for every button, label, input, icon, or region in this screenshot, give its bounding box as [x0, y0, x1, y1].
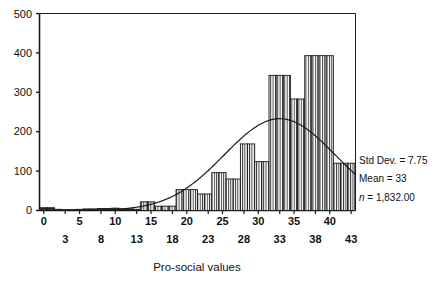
histogram-bar: [169, 206, 176, 210]
x-tick-label-20: 20: [181, 215, 193, 227]
y-tick-label-400: 400: [14, 47, 32, 59]
histogram-bar: [290, 99, 297, 211]
histogram-bar: [133, 209, 140, 210]
y-tick-label-100: 100: [14, 165, 32, 177]
n-value: = 1,832.00: [365, 192, 416, 203]
mean-label: Mean = 33: [359, 173, 407, 184]
x-tick-label-18: 18: [166, 233, 178, 245]
x-tick-label-40: 40: [324, 215, 336, 227]
x-tick-label-35: 35: [288, 215, 300, 227]
x-tick-label-23: 23: [202, 233, 214, 245]
chart-canvas: 0 100 200 300 400 500 051015202530354038…: [0, 0, 441, 286]
x-tick-label-43: 43: [345, 233, 357, 245]
x-tick-label-25: 25: [216, 215, 228, 227]
histogram-bar: [340, 163, 347, 210]
x-tick-label-28: 28: [238, 233, 250, 245]
x-tick-label-38: 38: [309, 233, 321, 245]
y-tick-label-0: 0: [26, 204, 32, 216]
x-axis-title: Pro-social values: [153, 261, 241, 273]
x-tick-label-30: 30: [252, 215, 264, 227]
histogram-bar: [240, 144, 247, 211]
histogram-bar: [190, 190, 197, 211]
x-tick-label-0: 0: [41, 215, 47, 227]
histogram-bar: [269, 75, 276, 210]
histogram-bar: [162, 206, 169, 210]
histogram-bar: [305, 56, 312, 211]
histogram-bar: [298, 99, 305, 211]
y-tick-label-300: 300: [14, 86, 32, 98]
histogram-bar: [219, 173, 226, 211]
histogram-bar: [333, 163, 340, 210]
x-tick-label-13: 13: [131, 233, 143, 245]
histogram-bar: [183, 190, 190, 211]
histogram-bar: [198, 194, 205, 211]
histogram-bar: [248, 144, 255, 211]
histogram-figure: 0 100 200 300 400 500 051015202530354038…: [0, 0, 441, 286]
histogram-bar: [262, 162, 269, 211]
x-tick-label-8: 8: [98, 233, 104, 245]
y-tick-label-500: 500: [14, 8, 32, 20]
x-tick-label-5: 5: [76, 215, 82, 227]
histogram-bar: [319, 56, 326, 211]
histogram-bar: [155, 206, 162, 210]
x-tick-label-3: 3: [62, 233, 68, 245]
histogram-bar: [205, 194, 212, 211]
histogram-bar: [276, 75, 283, 210]
std-dev-label: Std Dev. = 7.75: [359, 155, 428, 166]
x-tick-label-33: 33: [274, 233, 286, 245]
histogram-bar: [283, 75, 290, 210]
histogram-bar: [233, 179, 240, 211]
histogram-bar: [255, 162, 262, 211]
y-tick-label-200: 200: [14, 125, 32, 137]
x-tick-label-10: 10: [109, 215, 121, 227]
histogram-bar: [226, 179, 233, 211]
histogram-bar: [326, 56, 333, 211]
sample-size-label: n = 1,832.00: [359, 192, 415, 203]
histogram-bar: [126, 209, 133, 211]
x-tick-label-15: 15: [145, 215, 157, 227]
histogram-bar: [212, 173, 219, 211]
